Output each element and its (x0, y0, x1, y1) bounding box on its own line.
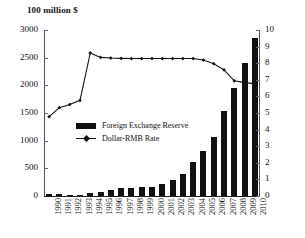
bar-2003 (180, 174, 186, 196)
bar-1996 (108, 190, 114, 196)
left-axis-tick-500: 500 (8, 162, 38, 172)
bar-2006 (211, 137, 217, 196)
bar-1990 (46, 194, 52, 196)
x-axis-label-1996: 1996 (114, 198, 124, 215)
bar-2005 (200, 151, 206, 196)
right-axis-tick-8: 8 (265, 57, 289, 67)
legend: Foreign Exchange Reserve Dollar-RMB Rate (76, 119, 188, 145)
left-axis-tick-2500: 2500 (8, 52, 38, 62)
bar-2008 (231, 88, 237, 196)
right-axis-tickmark (256, 30, 260, 31)
bar-1999 (139, 187, 145, 196)
bar-1991 (56, 194, 62, 196)
left-axis-tickmark (44, 141, 48, 142)
left-axis-tick-3000: 3000 (8, 24, 38, 34)
x-axis-tick-labels: 1990199119921993199419951996199719981999… (44, 198, 260, 238)
x-axis-label-1993: 1993 (84, 198, 94, 215)
left-axis-tickmark (44, 85, 48, 86)
line-marker-swatch-icon (76, 136, 96, 142)
right-axis-tickmark (256, 96, 260, 97)
left-axis-tickmark (44, 113, 48, 114)
x-axis-label-1997: 1997 (125, 198, 135, 215)
bar-2001 (159, 184, 165, 196)
x-axis-label-1991: 1991 (63, 198, 73, 215)
left-axis-tick-0: 0 (8, 190, 38, 200)
right-axis-tickmark (256, 47, 260, 48)
bar-1997 (118, 188, 124, 196)
bar-series-foreign-exchange-reserve (44, 30, 260, 196)
right-axis-tick-9: 9 (265, 41, 289, 51)
x-axis-label-2006: 2006 (217, 198, 227, 215)
right-axis-tickmark (256, 179, 260, 180)
right-axis-tickmark (256, 196, 260, 197)
right-axis-tick-5: 5 (265, 107, 289, 117)
right-axis-tick-7: 7 (265, 74, 289, 84)
foreign-exchange-reserve-chart: 100 million $ 19901991199219931994199519… (0, 0, 305, 238)
legend-label-line: Dollar-RMB Rate (102, 134, 159, 143)
bar-1992 (67, 195, 73, 196)
bar-1994 (87, 193, 93, 196)
legend-label-bar: Foreign Exchange Reserve (102, 121, 188, 130)
left-axis-tick-1000: 1000 (8, 135, 38, 145)
right-axis-tickmark (256, 163, 260, 164)
x-axis-label-2010: 2010 (258, 198, 268, 215)
right-axis-tick-6: 6 (265, 90, 289, 100)
bar-2007 (221, 111, 227, 196)
right-axis-tickmark (256, 130, 260, 131)
right-axis-tickmark (256, 80, 260, 81)
x-axis-label-2004: 2004 (197, 198, 207, 215)
left-axis-tickmark (44, 58, 48, 59)
bar-2002 (170, 180, 176, 196)
right-axis-tickmark (256, 146, 260, 147)
bar-1995 (98, 192, 104, 196)
right-axis-tick-1: 1 (265, 173, 289, 183)
bar-2009 (242, 63, 248, 196)
legend-item-line: Dollar-RMB Rate (76, 132, 188, 145)
x-axis-label-2003: 2003 (186, 198, 196, 215)
right-axis-tick-0: 0 (265, 190, 289, 200)
right-axis-tickmark (256, 63, 260, 64)
left-axis-tickmark (44, 168, 48, 169)
x-axis-label-1995: 1995 (104, 198, 114, 215)
x-axis-label-1990: 1990 (53, 198, 63, 215)
left-axis-tickmark (44, 30, 48, 31)
bar-2000 (149, 187, 155, 196)
right-axis-tick-2: 2 (265, 157, 289, 167)
x-axis-label-1999: 1999 (145, 198, 155, 215)
bar-1993 (77, 195, 83, 196)
bar-1998 (128, 188, 134, 196)
x-axis-label-1994: 1994 (94, 198, 104, 215)
right-axis-tick-3: 3 (265, 140, 289, 150)
y-axis-title: 100 million $ (27, 5, 78, 15)
left-axis-tick-1500: 1500 (8, 107, 38, 117)
x-axis-label-1998: 1998 (135, 198, 145, 215)
x-axis-label-2000: 2000 (156, 198, 166, 215)
x-axis-label-2002: 2002 (176, 198, 186, 215)
bar-2010 (252, 38, 258, 196)
x-axis-label-2009: 2009 (248, 198, 258, 215)
right-axis-tick-4: 4 (265, 124, 289, 134)
bar-swatch-icon (76, 123, 96, 129)
x-axis-label-1992: 1992 (73, 198, 83, 215)
x-axis-line (44, 196, 260, 197)
x-axis-label-2008: 2008 (238, 198, 248, 215)
right-axis-tick-10: 10 (265, 24, 289, 34)
x-axis-label-2005: 2005 (207, 198, 217, 215)
x-axis-label-2007: 2007 (228, 198, 238, 215)
right-axis-tickmark (256, 113, 260, 114)
legend-item-bar: Foreign Exchange Reserve (76, 119, 188, 132)
x-axis-label-2001: 2001 (166, 198, 176, 215)
bar-2004 (190, 162, 196, 196)
left-axis-tick-2000: 2000 (8, 79, 38, 89)
